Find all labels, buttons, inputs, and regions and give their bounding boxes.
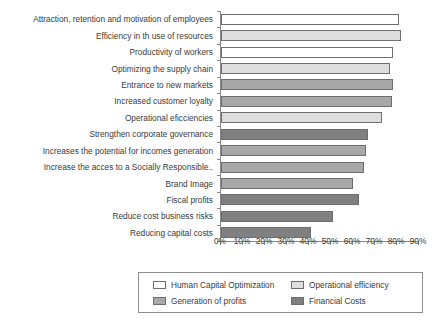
y-axis-tick [217,11,220,12]
y-axis-tick [217,44,220,45]
legend-swatch [153,297,166,305]
category-label: Efficiency in th use of resources [0,31,213,41]
bar [221,162,364,173]
y-axis-tick [217,225,220,226]
y-axis-tick [217,77,220,78]
category-label: Fiscal profits [0,195,213,205]
legend-label: Human Capital Optimization [171,280,274,290]
x-axis-tick-label: 90% [405,236,431,246]
category-label: Optimizing the supply chain [0,64,213,74]
y-axis-tick [217,126,220,127]
legend-entry: Generation of profits [153,296,246,306]
category-label: Brand Image [0,179,213,189]
y-axis-tick [217,208,220,209]
bar [221,145,366,156]
legend-swatch [291,297,304,305]
y-axis-tick [217,142,220,143]
category-label: Strengthen corporate governance [0,129,213,139]
bar-chart: Attraction, retention and motivation of … [0,0,438,325]
bar [221,14,399,25]
y-axis-tick [217,110,220,111]
chart-legend: Human Capital OptimizationOperational ef… [138,272,423,313]
bar [221,79,393,90]
legend-entry: Financial Costs [291,296,366,306]
bar [221,178,353,189]
legend-label: Operational efficiency [309,280,389,290]
y-axis-tick [217,60,220,61]
legend-entry: Operational efficiency [291,280,389,290]
bar [221,194,359,205]
bar [221,47,393,58]
y-axis-tick [217,93,220,94]
y-axis-tick [217,159,220,160]
y-axis-line [220,11,221,241]
category-label: Entrance to new markets [0,80,213,90]
category-label: Increase the acces to a Socially Respons… [0,162,213,172]
category-label: Reducing capital costs [0,228,213,238]
legend-label: Financial Costs [309,296,366,306]
legend-entry: Human Capital Optimization [153,280,274,290]
category-label: Operational eficciencies [0,113,213,123]
y-axis-tick [217,192,220,193]
bar [221,211,333,222]
bar [221,129,368,140]
y-axis-tick [217,175,220,176]
bar [221,112,382,123]
legend-swatch [153,281,166,289]
bar [221,63,390,74]
legend-swatch [291,281,304,289]
category-label: Productivity of workers [0,47,213,57]
category-axis-labels: Attraction, retention and motivation of … [0,11,217,241]
category-label: Increased customer loyalty [0,96,213,106]
bar [221,30,401,41]
legend-label: Generation of profits [171,296,246,306]
plot-area [220,11,420,241]
category-label: Reduce cost business risks [0,211,213,221]
bar [221,96,392,107]
category-label: Increases the potential for incomes gene… [0,146,213,156]
y-axis-tick [217,27,220,28]
category-label: Attraction, retention and motivation of … [0,14,213,24]
